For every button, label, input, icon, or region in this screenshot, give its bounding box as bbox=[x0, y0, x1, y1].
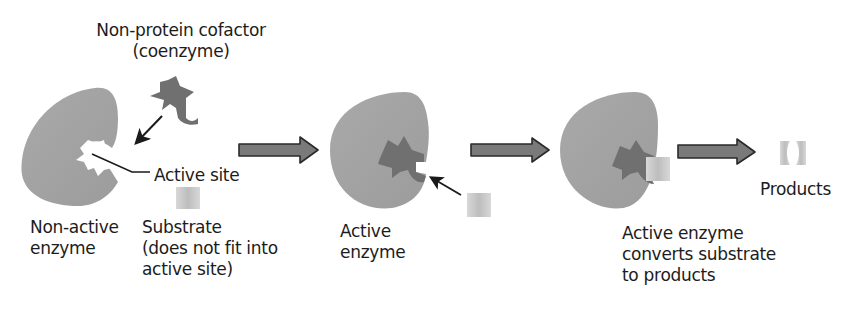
cofactor-binding-arrow bbox=[137, 116, 162, 142]
substrate-label: Substrate (does not fit into active site… bbox=[142, 217, 278, 280]
enzyme-cofactor-diagram: Non-protein cofactor (coenzyme) Active s… bbox=[0, 0, 857, 317]
flow-arrow-3 bbox=[678, 139, 755, 164]
active-enzyme-label: Active enzyme bbox=[340, 221, 405, 263]
cofactor-shape bbox=[150, 76, 198, 125]
flow-arrow-2 bbox=[471, 138, 549, 162]
flow-arrow-1 bbox=[239, 137, 318, 163]
substrate-block-2 bbox=[467, 193, 491, 217]
products-shape bbox=[780, 141, 806, 165]
substrate-block-1 bbox=[176, 187, 200, 209]
converts-label: Active enzyme converts substrate to prod… bbox=[622, 223, 776, 286]
substrate-binding-arrow bbox=[432, 178, 461, 195]
active-site-label: Active site bbox=[154, 165, 239, 186]
bound-substrate bbox=[646, 157, 670, 181]
non-active-enzyme-label: Non-active enzyme bbox=[30, 217, 119, 259]
products-label: Products bbox=[760, 179, 831, 200]
enzyme-substrate-complex-shape bbox=[560, 92, 670, 209]
cofactor-label: Non-protein cofactor (coenzyme) bbox=[88, 20, 274, 62]
non-active-enzyme-shape bbox=[22, 88, 118, 206]
active-enzyme-shape bbox=[330, 92, 429, 208]
